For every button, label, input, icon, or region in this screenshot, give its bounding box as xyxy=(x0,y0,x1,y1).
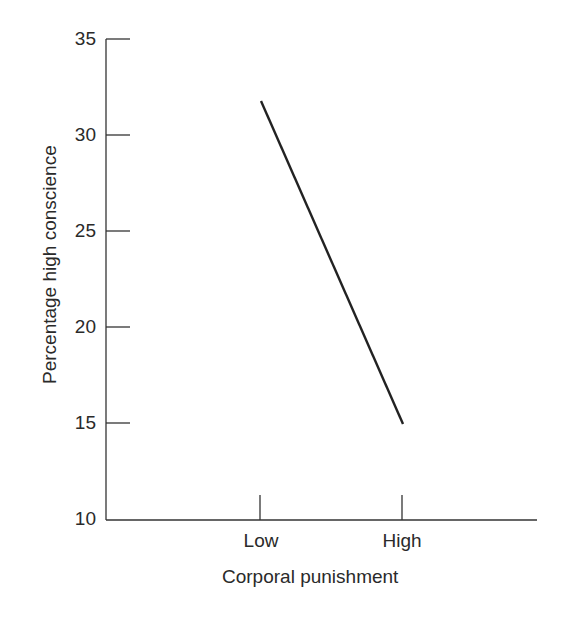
data-line xyxy=(261,101,403,424)
y-tick-label: 10 xyxy=(56,508,96,530)
y-ticks xyxy=(106,39,130,423)
y-tick-label: 35 xyxy=(56,28,96,50)
y-tick-label: 25 xyxy=(56,220,96,242)
y-tick-label: 15 xyxy=(56,412,96,434)
x-axis-label: Corporal punishment xyxy=(222,566,482,588)
y-tick-label: 30 xyxy=(56,124,96,146)
y-axis-label: Percentage high conscience xyxy=(39,174,61,384)
y-tick-label: 20 xyxy=(56,316,96,338)
x-tick-label-low: Low xyxy=(221,530,301,552)
x-tick-label-high: High xyxy=(362,530,442,552)
x-ticks xyxy=(260,495,402,520)
